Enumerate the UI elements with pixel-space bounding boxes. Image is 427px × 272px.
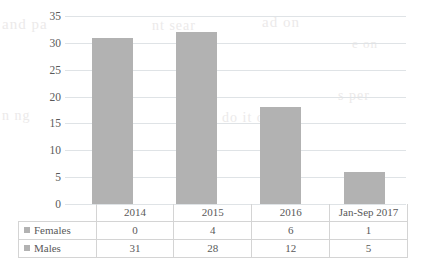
chart-figure: 05101520253035 201420152016Jan-Sep 2017F… — [0, 0, 427, 272]
y-axis-tick-label: 35 — [50, 10, 62, 22]
legend-swatch-icon — [24, 227, 30, 233]
category-label-cell: 2016 — [252, 204, 330, 222]
y-axis-tick-label: 20 — [50, 91, 62, 103]
category-label-cell: Jan-Sep 2017 — [330, 204, 408, 222]
y-axis-tick-label: 30 — [50, 37, 62, 49]
y-axis-tick-label: 15 — [50, 117, 62, 129]
bar-2016 — [260, 107, 301, 204]
y-axis-tick-label: 25 — [50, 64, 62, 76]
data-value-cell: 0 — [96, 222, 174, 240]
bar-jan-sep-2017 — [344, 172, 385, 204]
table-row: Males3128125 — [19, 240, 408, 258]
legend-entry-females: Females — [19, 222, 97, 240]
bar-2015 — [176, 32, 217, 204]
bar-2014 — [92, 38, 133, 205]
y-axis-tick-label: 10 — [50, 144, 62, 156]
data-value-cell: 12 — [252, 240, 330, 258]
data-value-cell: 4 — [174, 222, 252, 240]
legend-swatch-icon — [24, 245, 30, 251]
category-label-cell: 2015 — [174, 204, 252, 222]
data-value-cell: 5 — [330, 240, 408, 258]
data-value-cell: 31 — [96, 240, 174, 258]
table-corner-cell — [19, 204, 97, 222]
plot-area: 05101520253035 — [70, 16, 406, 204]
category-header-row: 201420152016Jan-Sep 2017 — [19, 204, 408, 222]
bars-layer — [70, 16, 406, 204]
table-row: Females0461 — [19, 222, 408, 240]
chart-data-table: 201420152016Jan-Sep 2017Females0461Males… — [18, 204, 408, 258]
data-value-cell: 6 — [252, 222, 330, 240]
legend-label: Males — [34, 242, 61, 254]
category-label-cell: 2014 — [96, 204, 174, 222]
y-axis-tick-label: 5 — [55, 171, 61, 183]
data-value-cell: 28 — [174, 240, 252, 258]
legend-entry-males: Males — [19, 240, 97, 258]
legend-label: Females — [34, 224, 71, 236]
data-value-cell: 1 — [330, 222, 408, 240]
